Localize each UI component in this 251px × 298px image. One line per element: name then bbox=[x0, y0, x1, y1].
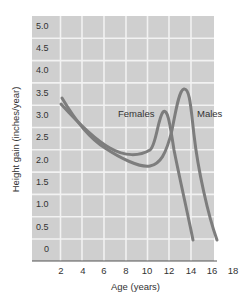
grid bbox=[32, 16, 214, 261]
x-tick-2: 2 bbox=[58, 265, 63, 276]
y-tick-2.0: 2.0 bbox=[36, 155, 56, 165]
x-tick-6: 6 bbox=[101, 265, 106, 276]
x-axis-label: Age (years) bbox=[0, 281, 251, 292]
males-label: Males bbox=[197, 108, 222, 119]
females-label: Females bbox=[118, 108, 154, 119]
x-tick-14: 14 bbox=[186, 265, 197, 276]
x-tick-18: 18 bbox=[228, 265, 239, 276]
y-tick-2.5: 2.5 bbox=[36, 132, 56, 142]
x-tick-10: 10 bbox=[142, 265, 153, 276]
y-tick-4.5: 4.5 bbox=[36, 43, 56, 53]
y-axis-label: Height gain (inches/year) bbox=[10, 75, 21, 205]
y-tick-1.5: 1.5 bbox=[36, 177, 56, 187]
y-tick-3.0: 3.0 bbox=[36, 110, 56, 120]
x-tick-12: 12 bbox=[164, 265, 175, 276]
x-tick-4: 4 bbox=[80, 265, 85, 276]
y-tick-4.0: 4.0 bbox=[36, 65, 56, 75]
x-tick-8: 8 bbox=[123, 265, 128, 276]
y-tick-0: 0 bbox=[44, 244, 64, 254]
y-tick-1.0: 1.0 bbox=[36, 199, 56, 209]
y-tick-5.0: 5.0 bbox=[36, 21, 56, 31]
y-tick-3.5: 3.5 bbox=[36, 88, 56, 98]
y-tick-0.5: 0.5 bbox=[36, 222, 56, 232]
x-tick-16: 16 bbox=[207, 265, 218, 276]
